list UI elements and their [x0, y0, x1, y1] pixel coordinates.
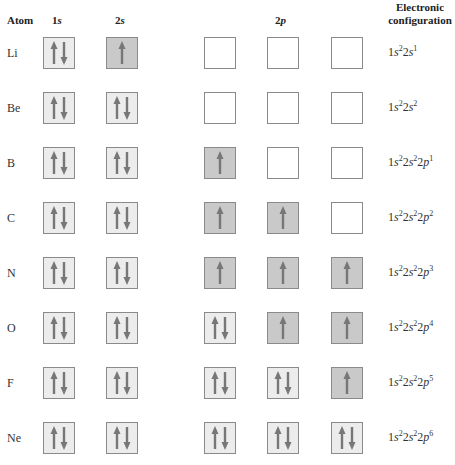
- spin-pair-icon: [44, 93, 74, 123]
- atom-row-f: F1s22s22p5: [0, 367, 455, 399]
- orbital-box: [331, 257, 363, 289]
- spin-pair-icon: [107, 148, 137, 178]
- electron-configuration: 1s22s22p2: [388, 210, 433, 225]
- spin-up-icon: [205, 258, 235, 288]
- atom-row-ne: Ne1s22s22p6: [0, 422, 455, 454]
- spin-up-icon: [332, 368, 362, 398]
- spin-up-icon: [205, 203, 235, 233]
- orbital-box: [106, 92, 138, 124]
- orbital-box: [43, 367, 75, 399]
- orbital-box: [331, 422, 363, 454]
- atom-label: Ne: [7, 431, 21, 446]
- orbital-box: [106, 202, 138, 234]
- spin-pair-icon: [205, 368, 235, 398]
- header-1s: 1s: [52, 14, 62, 26]
- electron-configuration: 1s22s2: [388, 100, 417, 115]
- orbital-box: [267, 312, 299, 344]
- electron-configuration: 1s22s22p5: [388, 375, 433, 390]
- orbital-box: [267, 92, 299, 124]
- spin-pair-icon: [107, 203, 137, 233]
- orbital-box: [106, 257, 138, 289]
- spin-up-icon: [205, 148, 235, 178]
- spin-pair-icon: [44, 368, 74, 398]
- spin-pair-icon: [107, 423, 137, 453]
- header-config-line2: configuration: [384, 14, 455, 27]
- orbital-box: [204, 147, 236, 179]
- orbital-box: [204, 367, 236, 399]
- header-2s: 2s: [115, 14, 125, 26]
- spin-pair-icon: [44, 258, 74, 288]
- orbital-box: [106, 37, 138, 69]
- spin-pair-icon: [268, 368, 298, 398]
- orbital-box: [43, 92, 75, 124]
- atom-label: Be: [7, 101, 20, 116]
- orbital-box: [204, 422, 236, 454]
- orbital-box: [267, 422, 299, 454]
- atom-label: O: [7, 321, 16, 336]
- orbital-box: [331, 92, 363, 124]
- spin-up-icon: [268, 313, 298, 343]
- electron-configuration: 1s22s22p6: [388, 430, 433, 445]
- orbital-box: [331, 202, 363, 234]
- electron-configuration: 1s22s22p4: [388, 320, 433, 335]
- spin-up-icon: [268, 258, 298, 288]
- spin-up-icon: [332, 258, 362, 288]
- orbital-box: [43, 312, 75, 344]
- orbital-box: [106, 422, 138, 454]
- spin-up-icon: [268, 203, 298, 233]
- orbital-box: [106, 147, 138, 179]
- header-config-line1: Electronic: [384, 1, 455, 14]
- orbital-box: [267, 147, 299, 179]
- atom-row-b: B1s22s22p1: [0, 147, 455, 179]
- atom-label: C: [7, 211, 15, 226]
- atom-row-o: O1s22s22p4: [0, 312, 455, 344]
- orbital-box: [43, 257, 75, 289]
- header-2p: 2p: [275, 14, 286, 26]
- orbital-box: [331, 147, 363, 179]
- spin-pair-icon: [205, 313, 235, 343]
- spin-pair-icon: [44, 313, 74, 343]
- atom-label: Li: [7, 46, 18, 61]
- atom-row-c: C1s22s22p2: [0, 202, 455, 234]
- electron-configuration: 1s22s1: [388, 45, 417, 60]
- orbital-box: [204, 92, 236, 124]
- orbital-box: [43, 202, 75, 234]
- orbital-box: [267, 37, 299, 69]
- orbital-box: [204, 37, 236, 69]
- spin-up-icon: [107, 38, 137, 68]
- electron-configuration: 1s22s22p1: [388, 155, 433, 170]
- electron-configuration: 1s22s22p3: [388, 265, 433, 280]
- orbital-box: [267, 257, 299, 289]
- orbital-box: [267, 367, 299, 399]
- header-1s-orb: s: [58, 14, 62, 26]
- atom-row-n: N1s22s22p3: [0, 257, 455, 289]
- orbital-box: [204, 202, 236, 234]
- spin-pair-icon: [44, 38, 74, 68]
- spin-pair-icon: [44, 423, 74, 453]
- orbital-box: [106, 312, 138, 344]
- atom-row-li: Li1s22s1: [0, 37, 455, 69]
- spin-pair-icon: [44, 203, 74, 233]
- spin-pair-icon: [107, 93, 137, 123]
- header-2p-orb: p: [281, 14, 287, 26]
- orbital-box: [331, 37, 363, 69]
- orbital-box: [331, 312, 363, 344]
- orbital-box: [43, 422, 75, 454]
- orbital-box: [204, 257, 236, 289]
- spin-pair-icon: [107, 368, 137, 398]
- orbital-box: [204, 312, 236, 344]
- orbital-box: [43, 37, 75, 69]
- spin-pair-icon: [268, 423, 298, 453]
- spin-pair-icon: [107, 258, 137, 288]
- header-config: Electronicconfiguration: [384, 1, 455, 27]
- spin-pair-icon: [44, 148, 74, 178]
- spin-up-icon: [332, 313, 362, 343]
- orbital-box: [106, 367, 138, 399]
- atom-row-be: Be1s22s2: [0, 92, 455, 124]
- spin-pair-icon: [205, 423, 235, 453]
- atom-label: B: [7, 156, 15, 171]
- spin-pair-icon: [332, 423, 362, 453]
- spin-pair-icon: [107, 313, 137, 343]
- header-atom: Atom: [7, 14, 33, 26]
- orbital-box: [43, 147, 75, 179]
